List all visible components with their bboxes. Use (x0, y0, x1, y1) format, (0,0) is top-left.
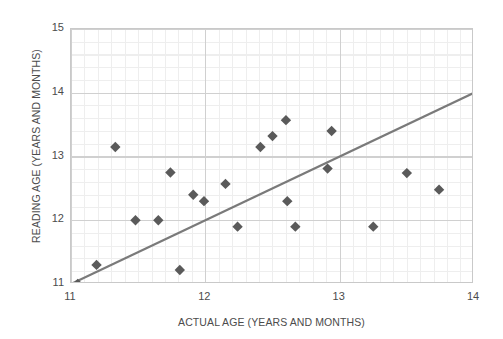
data-point (165, 167, 175, 177)
y-tick-label: 14 (38, 85, 64, 97)
x-tick-label: 12 (189, 290, 219, 302)
data-point (175, 265, 185, 275)
data-point (130, 215, 140, 225)
data-point (220, 179, 230, 189)
data-point (267, 131, 277, 141)
y-tick-label: 11 (38, 276, 64, 288)
y-tick-label: 15 (38, 21, 64, 33)
data-point (199, 196, 209, 206)
x-tick-label: 14 (458, 290, 488, 302)
scatter-chart: READING AGE (YEARS AND MONTHS) ACTUAL AG… (0, 0, 503, 339)
data-point (434, 184, 444, 194)
data-point (326, 126, 336, 136)
data-point (153, 215, 163, 225)
data-point (232, 221, 242, 231)
data-layer (71, 29, 473, 283)
x-tick-label: 11 (55, 290, 85, 302)
y-tick-label: 12 (38, 212, 64, 224)
data-point (255, 142, 265, 152)
plot-area (70, 28, 473, 283)
trend-line (71, 93, 473, 283)
y-tick-label: 13 (38, 149, 64, 161)
x-axis-title: ACTUAL AGE (YEARS AND MONTHS) (70, 316, 473, 328)
x-tick-label: 13 (324, 290, 354, 302)
data-point (281, 115, 291, 125)
data-point (110, 142, 120, 152)
y-axis-title: READING AGE (YEARS AND MONTHS) (30, 19, 42, 274)
data-point (282, 196, 292, 206)
data-point (188, 190, 198, 200)
data-point (290, 221, 300, 231)
data-point (368, 221, 378, 231)
data-point (91, 260, 101, 270)
data-point (402, 168, 412, 178)
